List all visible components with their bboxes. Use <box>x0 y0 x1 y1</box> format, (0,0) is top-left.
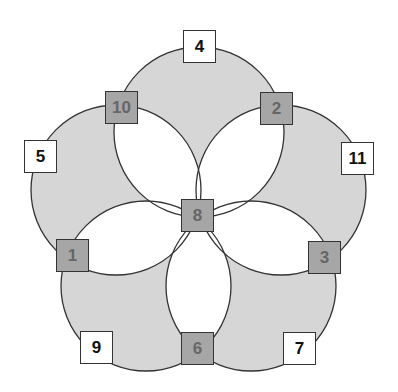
number-box-9: 9 <box>80 331 113 364</box>
box-label: 4 <box>195 37 204 57</box>
number-box-10: 10 <box>105 91 138 124</box>
box-label: 1 <box>68 246 77 266</box>
number-box-4: 4 <box>183 30 216 63</box>
box-label: 9 <box>92 338 101 358</box>
box-label: 7 <box>295 339 304 359</box>
number-box-2: 2 <box>260 92 293 125</box>
number-box-6: 6 <box>181 332 214 365</box>
number-box-7: 7 <box>283 332 316 365</box>
box-label: 11 <box>349 149 367 169</box>
number-box-8: 8 <box>181 199 214 232</box>
number-box-3: 3 <box>308 241 341 274</box>
box-label: 2 <box>272 99 281 119</box>
box-label: 5 <box>36 147 45 167</box>
number-box-11: 11 <box>341 142 374 175</box>
box-label: 8 <box>193 206 202 226</box>
box-label: 10 <box>112 98 131 118</box>
box-label: 3 <box>320 248 329 268</box>
number-box-1: 1 <box>56 239 89 272</box>
box-label: 6 <box>193 339 202 359</box>
number-box-5: 5 <box>24 140 57 173</box>
